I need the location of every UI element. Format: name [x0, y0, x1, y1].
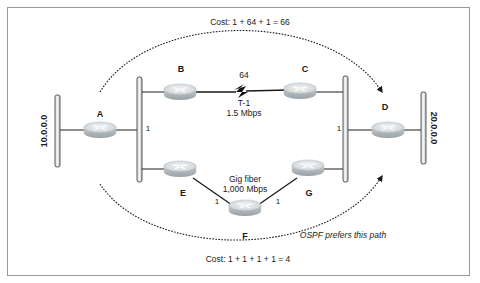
router-c-label: C: [302, 64, 309, 74]
router-e-icon[interactable]: [164, 161, 196, 177]
router-g-label: G: [305, 188, 312, 198]
diagram-frame: [8, 8, 470, 276]
network-bus-left: [55, 95, 60, 167]
router-e-label: E: [180, 188, 186, 198]
ospf-preference-note: OSPF prefers this path: [300, 230, 387, 240]
bottom-path-cost-label: Cost: 1 + 1 + 1 + 1 = 4: [206, 254, 291, 264]
router-c-icon[interactable]: [284, 83, 316, 99]
router-d-icon[interactable]: [372, 122, 404, 138]
a-segment-cost-label: 1: [146, 124, 151, 133]
router-a-icon[interactable]: [84, 122, 116, 138]
fg-cost-label: 1: [276, 197, 281, 206]
router-g-icon[interactable]: [292, 160, 324, 176]
network-bus-right: [421, 92, 426, 164]
router-b-label: B: [178, 64, 185, 74]
t1-cost-label: 64: [239, 70, 249, 80]
d-segment-cost-label: 1: [337, 124, 342, 133]
ospf-cost-diagram: A B C D E F G 10.0.0.0 20.0.0.0 64 T-1 1…: [0, 0, 480, 283]
router-f-label: F: [242, 231, 248, 241]
ef-cost-label: 1: [215, 197, 220, 206]
top-path-cost-label: Cost: 1 + 64 + 1 = 66: [210, 17, 290, 27]
network-label-right: 20.0.0.0: [429, 112, 439, 145]
router-b-icon[interactable]: [164, 84, 196, 100]
gig-speed-label: 1,000 Mbps: [223, 184, 267, 194]
network-bus-a-side: [137, 77, 142, 182]
router-f-icon[interactable]: [229, 200, 261, 216]
t1-name-label: T-1: [238, 98, 251, 108]
router-a-label: A: [97, 109, 104, 119]
network-bus-d-side: [343, 76, 348, 182]
router-d-label: D: [382, 102, 389, 112]
t1-speed-label: 1.5 Mbps: [227, 108, 262, 118]
network-label-left: 10.0.0.0: [39, 115, 49, 148]
gig-name-label: Gig fiber: [229, 174, 261, 184]
